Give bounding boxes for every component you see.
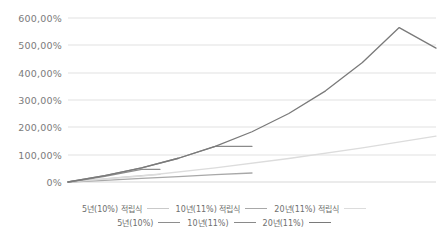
legend-item-label: 5년(10%) 적립식 — [82, 203, 142, 214]
y-axis-labels: 0%100,00%200,00%300,00%400,00%500,00%600… — [0, 0, 66, 196]
legend-item[interactable]: 5년(10%) 적립식 — [82, 203, 169, 214]
y-axis-tick-label: 200,00% — [18, 122, 62, 133]
series-line — [68, 28, 436, 182]
legend-item[interactable]: 10년(11%) 적립식 — [176, 203, 268, 214]
y-axis-tick-label: 0% — [47, 177, 62, 188]
legend-item-label: 10년(11%) — [187, 217, 228, 228]
legend-color-swatch — [309, 222, 331, 223]
legend-item[interactable]: 5년(10%) — [117, 217, 180, 228]
legend-row: 5년(10%)10년(11%)20년(11%) — [117, 217, 331, 228]
series-lines — [68, 0, 436, 196]
legend-item[interactable]: 10년(11%) — [187, 217, 255, 228]
legend-item-label: 5년(10%) — [117, 217, 153, 228]
y-axis-tick-label: 100,00% — [18, 149, 62, 160]
y-axis-tick-label: 400,00% — [18, 67, 62, 78]
legend-item-label: 20년(11%) 적립식 — [274, 203, 339, 214]
legend-color-swatch — [344, 208, 366, 209]
legend-item-label: 20년(11%) — [263, 217, 304, 228]
legend-color-swatch — [147, 208, 169, 209]
legend-color-swatch — [158, 222, 180, 223]
legend-color-swatch — [245, 208, 267, 209]
legend-item-label: 10년(11%) 적립식 — [176, 203, 241, 214]
legend-row: 5년(10%) 적립식10년(11%) 적립식20년(11%) 적립식 — [82, 203, 366, 214]
gridlines-and-series — [68, 0, 436, 196]
chart-legend: 5년(10%) 적립식10년(11%) 적립식20년(11%) 적립식5년(10… — [0, 203, 448, 228]
legend-item[interactable]: 20년(11%) 적립식 — [274, 203, 366, 214]
series-line — [68, 136, 436, 182]
y-axis-tick-label: 500,00% — [18, 40, 62, 51]
y-axis-tick-label: 300,00% — [18, 95, 62, 106]
legend-item[interactable]: 20년(11%) — [263, 217, 331, 228]
plot-area: 0%100,00%200,00%300,00%400,00%500,00%600… — [0, 0, 448, 196]
legend-color-swatch — [234, 222, 256, 223]
line-chart: 0%100,00%200,00%300,00%400,00%500,00%600… — [0, 0, 448, 232]
y-axis-tick-label: 600,00% — [18, 13, 62, 24]
